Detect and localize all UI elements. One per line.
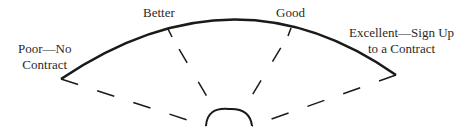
radial-good-dashed bbox=[242, 36, 288, 112]
radial-better-dashed bbox=[172, 37, 216, 112]
label-excellent-line2: to a Contract bbox=[349, 41, 454, 57]
label-poor-no-contract: Poor—No Contract bbox=[18, 41, 71, 73]
label-better: Better bbox=[143, 5, 175, 21]
label-poor-line1: Poor—No bbox=[18, 41, 71, 57]
fan-scale-diagram: Poor—No Contract Better Good Excellent—S… bbox=[0, 0, 472, 138]
label-good: Good bbox=[276, 5, 305, 21]
tick-better bbox=[168, 29, 172, 37]
label-poor-line2: Contract bbox=[18, 57, 71, 73]
label-excellent-sign-up: Excellent—Sign Up to a Contract bbox=[349, 25, 454, 57]
tick-good bbox=[288, 28, 291, 36]
label-excellent-line1: Excellent—Sign Up bbox=[349, 25, 454, 41]
left-dashed-edge bbox=[61, 79, 206, 126]
right-dashed-edge bbox=[252, 75, 396, 126]
outer-arc bbox=[61, 19, 396, 79]
hub-semicircle bbox=[206, 109, 252, 126]
